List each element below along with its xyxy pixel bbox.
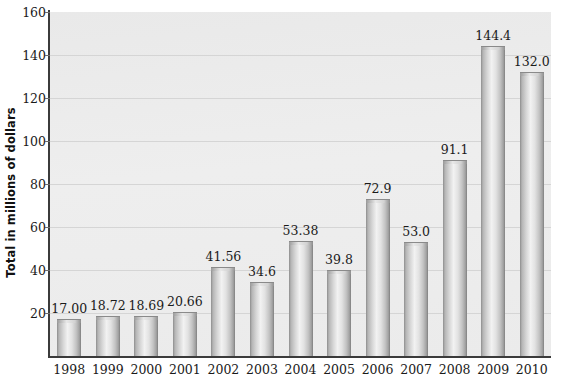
bar-value-label: 34.6	[248, 264, 276, 279]
bar[interactable]	[57, 319, 81, 356]
gridline	[50, 141, 551, 142]
bar[interactable]	[250, 282, 274, 356]
bar-value-label: 41.56	[206, 249, 242, 264]
bar-top-cap	[211, 268, 235, 271]
bar[interactable]	[520, 72, 544, 356]
bar-chart: Total in millions of dollars 20406080100…	[0, 0, 562, 385]
y-axis-tick-mark	[45, 227, 50, 228]
y-axis-tick-label: 60	[14, 220, 46, 235]
y-axis-tick-mark	[45, 55, 50, 56]
bar[interactable]	[96, 316, 120, 356]
x-axis-tick-label: 1999	[92, 362, 124, 377]
bar-top-cap	[173, 313, 197, 316]
bar-top-cap	[134, 317, 158, 320]
bar-top-cap	[289, 242, 313, 245]
y-axis-tick-labels: 20406080100120140160	[14, 0, 46, 385]
bar[interactable]	[404, 242, 428, 356]
bar-top-cap	[481, 47, 505, 50]
x-axis-tick-label: 2010	[516, 362, 548, 377]
bar-value-label: 53.0	[402, 224, 430, 239]
bar-value-label: 17.00	[51, 301, 87, 316]
gridline	[50, 98, 551, 99]
y-axis-tick-mark	[45, 313, 50, 314]
x-axis-tick-label: 2008	[439, 362, 471, 377]
x-axis-tick-label: 2002	[208, 362, 240, 377]
y-axis-tick-mark	[45, 12, 50, 13]
gridline	[50, 184, 551, 185]
x-axis-tick-label: 2006	[362, 362, 394, 377]
bar-value-label: 18.72	[90, 298, 126, 313]
bar-top-cap	[57, 320, 81, 323]
x-axis-tick-label: 2004	[285, 362, 317, 377]
bar-top-cap	[327, 271, 351, 274]
y-axis-tick-mark	[45, 141, 50, 142]
x-axis-tick-label: 2009	[477, 362, 509, 377]
y-axis-tick-label: 140	[14, 48, 46, 63]
bar-value-label: 91.1	[441, 142, 469, 157]
bar-value-label: 53.38	[283, 223, 319, 238]
bar-top-cap	[443, 161, 467, 164]
bar[interactable]	[289, 241, 313, 356]
x-axis-tick-label: 2005	[323, 362, 355, 377]
y-axis-tick-label: 80	[14, 177, 46, 192]
x-axis-tick-label: 2000	[130, 362, 162, 377]
bar-top-cap	[520, 73, 544, 76]
y-axis-tick-label: 160	[14, 5, 46, 20]
x-axis-tick-label: 2007	[400, 362, 432, 377]
bar[interactable]	[366, 199, 390, 356]
y-axis-tick-mark	[45, 98, 50, 99]
bar-value-label: 20.66	[167, 294, 203, 309]
bar-top-cap	[250, 283, 274, 286]
x-axis-tick-label: 1998	[53, 362, 85, 377]
bar-value-label: 132.0	[514, 54, 550, 69]
bar-value-label: 72.9	[364, 181, 392, 196]
bar-value-label: 39.8	[325, 252, 353, 267]
y-axis-tick-label: 120	[14, 91, 46, 106]
y-axis-tick-mark	[45, 270, 50, 271]
y-axis-tick-label: 100	[14, 134, 46, 149]
bar-top-cap	[366, 200, 390, 203]
x-axis-line	[48, 356, 551, 358]
bar[interactable]	[211, 267, 235, 356]
bar[interactable]	[134, 316, 158, 356]
y-axis-tick-label: 20	[14, 306, 46, 321]
x-axis-tick-label: 2001	[169, 362, 201, 377]
bar[interactable]	[481, 46, 505, 356]
bar-value-label: 18.69	[128, 298, 164, 313]
bar[interactable]	[327, 270, 351, 356]
bar-top-cap	[96, 317, 120, 320]
gridline	[50, 55, 551, 56]
bar[interactable]	[173, 312, 197, 356]
y-axis-tick-label: 40	[14, 263, 46, 278]
bar-top-cap	[404, 243, 428, 246]
bar[interactable]	[443, 160, 467, 356]
bar-value-label: 144.4	[475, 28, 511, 43]
x-axis-tick-label: 2003	[246, 362, 278, 377]
y-axis-tick-mark	[45, 184, 50, 185]
